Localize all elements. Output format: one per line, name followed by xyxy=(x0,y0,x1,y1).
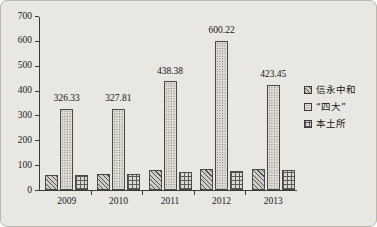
legend-label: “四大” xyxy=(316,102,346,112)
bar xyxy=(149,170,162,190)
y-axis-tick: 300 xyxy=(35,115,39,116)
bar xyxy=(75,175,88,190)
x-axis-tick xyxy=(142,191,143,195)
chart-legend: 信永中和“四大”本土所 xyxy=(304,81,376,132)
bar-value-label: 326.33 xyxy=(60,94,73,104)
bar-group: 438.38 xyxy=(149,17,192,190)
y-axis-tick-label: 600 xyxy=(18,37,32,47)
legend-label: 信永中和 xyxy=(316,85,356,95)
y-axis-tick: 0 xyxy=(35,190,39,191)
bar xyxy=(127,174,140,190)
bar xyxy=(164,81,177,190)
legend-swatch-icon xyxy=(304,120,312,128)
y-axis-line xyxy=(39,17,40,191)
bar-value-text: 326.33 xyxy=(54,94,80,104)
x-axis-label-2012: 2012 xyxy=(200,197,243,207)
bar-value-text: 327.81 xyxy=(105,94,131,104)
bar xyxy=(112,109,125,190)
legend-item[interactable]: “四大” xyxy=(304,98,376,115)
y-axis-tick: 100 xyxy=(35,165,39,166)
legend-item[interactable]: 本土所 xyxy=(304,115,376,132)
x-axis-label-2010: 2010 xyxy=(97,197,140,207)
y-axis-tick-label: 700 xyxy=(18,12,32,22)
y-axis-tick-label: 500 xyxy=(18,61,32,71)
bar xyxy=(179,172,192,190)
bar xyxy=(230,171,243,190)
bar-group: 423.45 xyxy=(252,17,295,190)
bar-value-text: 600.22 xyxy=(209,26,235,36)
bar xyxy=(97,174,110,190)
y-axis-tick-label: 0 xyxy=(27,186,32,196)
y-axis-tick-label: 100 xyxy=(18,161,32,171)
plot-area: 0100200300400500600700 20092010201120122… xyxy=(39,17,297,191)
bar xyxy=(282,170,295,190)
x-axis-label-2009: 2009 xyxy=(45,197,88,207)
legend-label: 本土所 xyxy=(316,119,346,129)
legend-swatch-icon xyxy=(304,103,312,111)
bar-value-label: 438.38 xyxy=(164,67,177,77)
x-axis-label-2013: 2013 xyxy=(252,197,295,207)
bar xyxy=(215,41,228,190)
y-axis-tick: 700 xyxy=(35,16,39,17)
y-axis-tick: 500 xyxy=(35,66,39,67)
x-axis-line xyxy=(39,190,297,191)
y-axis-tick: 200 xyxy=(35,140,39,141)
bar-group: 327.81 xyxy=(97,17,140,190)
y-axis-tick-label: 200 xyxy=(18,136,32,146)
legend-item[interactable]: 信永中和 xyxy=(304,81,376,98)
x-axis-label-2011: 2011 xyxy=(149,197,192,207)
bar-value-label: 423.45 xyxy=(267,70,280,80)
y-axis-tick-label: 300 xyxy=(18,111,32,121)
bar xyxy=(200,169,213,190)
bar xyxy=(60,109,73,190)
bar xyxy=(45,175,58,190)
y-axis-tick: 600 xyxy=(35,41,39,42)
bar-value-label: 327.81 xyxy=(112,94,125,104)
bar-value-text: 438.38 xyxy=(157,67,183,77)
y-axis-tick-label: 400 xyxy=(18,86,32,96)
bar-value-text: 423.45 xyxy=(260,70,286,80)
y-axis-tick: 400 xyxy=(35,91,39,92)
bar xyxy=(267,85,280,190)
bar xyxy=(252,169,265,190)
chart-card: 0100200300400500600700 20092010201120122… xyxy=(0,0,377,227)
bar-value-label: 600.22 xyxy=(215,26,228,36)
x-axis-tick xyxy=(194,191,195,195)
bar-group: 326.33 xyxy=(45,17,88,190)
bar-group: 600.22 xyxy=(200,17,243,190)
x-axis-tick xyxy=(91,191,92,195)
x-axis-tick xyxy=(245,191,246,195)
legend-swatch-icon xyxy=(304,86,312,94)
